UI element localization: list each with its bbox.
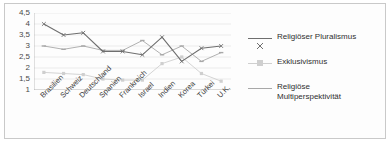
x-axis: BrasilienSchweizDeutschlandSpanienFrankr…	[34, 92, 234, 138]
data-point-marker	[82, 73, 85, 76]
legend-entry[interactable]: Religiöser Pluralismus	[248, 32, 382, 43]
legend-entry[interactable]: Religiöse Multiperspektivität	[248, 82, 382, 102]
chart-figure: 4,543,532,521,51 BrasilienSchweizDeutsch…	[4, 3, 386, 139]
legend-marker-icon	[248, 33, 272, 43]
data-point-marker	[200, 72, 203, 75]
legend-label: Religiöser Pluralismus	[277, 32, 356, 42]
data-point-marker	[180, 55, 183, 58]
data-point-marker	[220, 80, 223, 83]
y-tick-label: 3,5	[19, 31, 30, 39]
chart-legend: Religiöser PluralismusExklusivismusRelig…	[248, 32, 382, 116]
data-point-marker	[160, 35, 164, 39]
legend-label: Religiöse Multiperspektivität	[277, 82, 341, 102]
y-tick-label: 2	[26, 64, 30, 72]
legend-entry[interactable]: Exklusivismus	[248, 57, 382, 68]
data-point-marker	[180, 60, 184, 64]
y-axis: 4,543,532,521,51	[5, 4, 32, 99]
legend-label: Exklusivismus	[277, 57, 327, 67]
data-point-marker	[62, 72, 65, 75]
y-tick-label: 2,5	[19, 53, 30, 61]
y-tick-label: 3	[26, 42, 30, 50]
y-tick-label: 1	[26, 86, 30, 94]
series-line	[44, 41, 221, 62]
y-tick-label: 4	[26, 20, 30, 28]
y-tick-label: 1,5	[19, 75, 30, 83]
y-tick-label: 4,5	[19, 9, 30, 17]
legend-marker-icon	[248, 83, 272, 93]
data-point-marker	[42, 22, 46, 26]
data-point-marker	[42, 71, 45, 74]
legend-marker-icon	[248, 58, 272, 68]
data-point-marker	[160, 62, 163, 65]
